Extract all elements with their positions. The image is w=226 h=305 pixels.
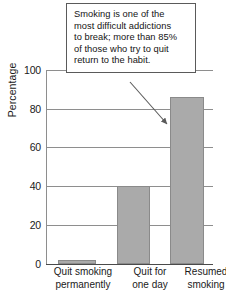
xtick-line-1: Quit smoking bbox=[44, 266, 122, 279]
x-axis-line bbox=[46, 264, 213, 265]
callout-line-4: of those who try to quit bbox=[74, 44, 188, 56]
callout-line-2: most difficult addictions bbox=[74, 21, 188, 33]
xtick-line-1: Quit for bbox=[122, 266, 178, 279]
xtick-label-resumed-smoking: Resumed smoking bbox=[176, 266, 226, 291]
xtick-label-quit-smoking-permanently: Quit smoking permanently bbox=[44, 266, 122, 291]
callout-line-3: to break; more than 85% bbox=[74, 32, 188, 44]
bar-quit-for-one-day bbox=[117, 186, 150, 264]
ytick-label-40: 40 bbox=[30, 181, 41, 192]
y-axis-title: Percentage bbox=[6, 20, 18, 160]
xtick-line-2: permanently bbox=[44, 279, 122, 292]
xtick-line-1: Resumed bbox=[176, 266, 226, 279]
ytick-20-wrap: 20 bbox=[0, 220, 41, 231]
ytick-label-80: 80 bbox=[30, 104, 41, 115]
ytick-label-20: 20 bbox=[30, 220, 41, 231]
ytick-label-100: 100 bbox=[24, 65, 41, 76]
xtick-label-quit-for-one-day: Quit for one day bbox=[122, 266, 178, 291]
callout-line-5: return to the habit. bbox=[74, 55, 188, 67]
xtick-line-2: smoking bbox=[176, 279, 226, 292]
plot-area bbox=[46, 70, 213, 264]
annotation-callout-box: Smoking is one of the most difficult add… bbox=[66, 3, 196, 73]
ytick-40-wrap: 40 bbox=[0, 181, 41, 192]
x-axis-category-labels: Quit smoking permanently Quit for one da… bbox=[46, 266, 214, 304]
bar-chart-figure: 100 80 60 40 20 0 Percentage Quit smokin… bbox=[0, 0, 226, 305]
callout-line-1: Smoking is one of the bbox=[74, 9, 188, 21]
annotation-callout-text: Smoking is one of the most difficult add… bbox=[74, 9, 188, 67]
ytick-0-wrap: 0 bbox=[0, 259, 41, 270]
xtick-line-2: one day bbox=[122, 279, 178, 292]
bar-resumed-smoking bbox=[170, 97, 204, 264]
ytick-label-0: 0 bbox=[35, 259, 41, 270]
ytick-label-60: 60 bbox=[30, 142, 41, 153]
